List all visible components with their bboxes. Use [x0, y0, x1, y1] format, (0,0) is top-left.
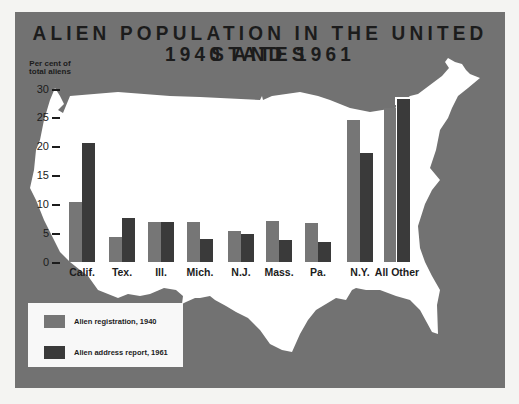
y-tick-mark — [52, 262, 60, 264]
bar-1940 — [384, 108, 397, 262]
bar-1961 — [360, 153, 373, 262]
bar-1961 — [397, 99, 410, 262]
plot-area — [0, 0, 519, 262]
x-category-label: All Other — [372, 266, 422, 278]
bar-1940 — [69, 202, 82, 262]
legend-swatch-1961 — [44, 346, 65, 359]
legend-label-1961: Alien address report, 1961 — [74, 348, 168, 357]
bar-1940 — [187, 222, 200, 262]
legend: Alien registration, 1940 Alien address r… — [28, 303, 183, 367]
bar-1961 — [279, 240, 292, 262]
bar-1940 — [305, 223, 318, 262]
legend-label-1940: Alien registration, 1940 — [74, 317, 157, 326]
bar-1940 — [228, 231, 241, 262]
bar-1961 — [122, 218, 135, 262]
bar-1961 — [200, 239, 213, 262]
bar-1940 — [109, 237, 122, 262]
bar-1940 — [266, 221, 279, 262]
bar-1961 — [161, 222, 174, 262]
bar-1940 — [148, 222, 161, 262]
bar-1961 — [82, 143, 95, 262]
bar-1961 — [241, 234, 254, 262]
bar-1940 — [347, 120, 360, 262]
legend-swatch-1940 — [44, 315, 65, 328]
bar-1961 — [318, 242, 331, 262]
